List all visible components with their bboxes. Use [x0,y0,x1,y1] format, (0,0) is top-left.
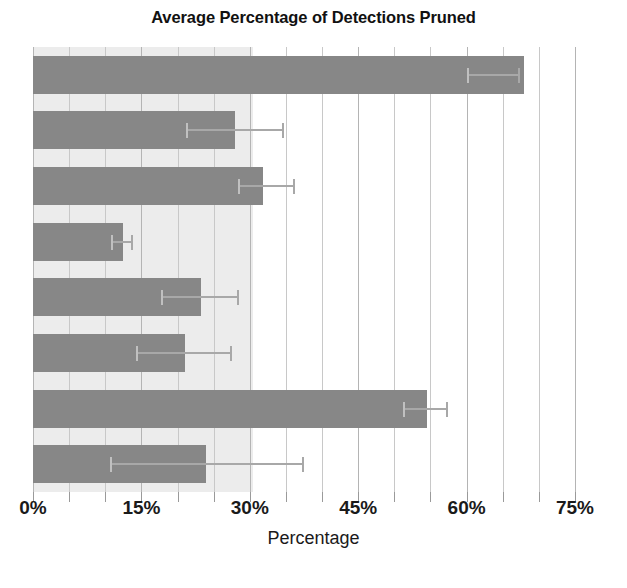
bar-row [33,111,575,149]
x-tick-label-30: 30% [231,497,269,519]
x-axis-title: Percentage [0,528,627,549]
error-bar-cap-low-4 [111,235,113,250]
error-bar-line-7 [403,408,446,410]
error-bar-cap-low-2 [186,123,188,138]
x-tick-label-75: 75% [556,497,594,519]
error-bar-cap-low-6 [136,346,138,361]
chart-title: Average Percentage of Detections Pruned [0,8,627,27]
bar-row [33,445,575,483]
x-tick-label-0: 0% [19,497,46,519]
bar-row [33,278,575,316]
bar-row [33,56,575,94]
bar-3 [33,167,263,205]
error-bar-cap-high-8 [302,457,304,472]
bar-row [33,390,575,428]
error-bar-cap-low-8 [110,457,112,472]
error-bar-cap-low-3 [238,179,240,194]
x-tick-label-45: 45% [339,497,377,519]
error-bar-line-3 [238,185,293,187]
chart-container: Average Percentage of Detections Pruned … [0,0,627,588]
plot-area [33,47,575,492]
error-bar-cap-low-1 [467,68,469,83]
error-bar-line-4 [111,241,131,243]
bar-row [33,223,575,261]
x-axis-tick-labels: 0%15%30%45%60%75% [0,497,627,527]
error-bar-line-2 [186,129,282,131]
error-bar-cap-low-7 [403,402,405,417]
error-bar-cap-high-5 [237,290,239,305]
gridline [575,47,576,492]
error-bar-cap-high-3 [293,179,295,194]
x-tick-label-15: 15% [122,497,160,519]
error-bar-cap-high-6 [230,346,232,361]
error-bar-cap-high-2 [282,123,284,138]
error-bar-cap-low-5 [161,290,163,305]
x-tick-label-60: 60% [448,497,486,519]
bar-row [33,167,575,205]
error-bar-line-1 [467,74,518,76]
bar-7 [33,390,427,428]
bar-4 [33,223,123,261]
bar-1 [33,56,524,94]
error-bar-line-6 [136,352,230,354]
error-bar-cap-high-7 [446,402,448,417]
error-bar-cap-high-4 [131,235,133,250]
error-bar-cap-high-1 [518,68,520,83]
error-bar-line-5 [161,296,237,298]
error-bar-line-8 [110,463,302,465]
bar-row [33,334,575,372]
